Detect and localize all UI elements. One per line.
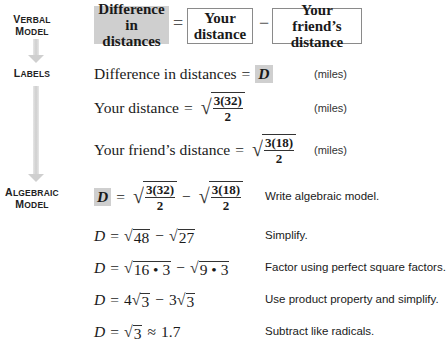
algebraic-row-result: D = √3 ≈ 1.7 <box>94 321 180 343</box>
step-description: Use product property and simplify. <box>265 293 439 305</box>
step-description: Write algebraic model. <box>265 190 379 202</box>
label-row-your-distance: Your distance = √ 3(32)2 <box>94 91 245 125</box>
units-label: (miles) <box>314 144 347 156</box>
verbal-term-your-distance: Your distance <box>187 8 253 44</box>
algebraic-row-product: D = 4 √3 − 3 √3 <box>94 289 195 311</box>
flow-arrow-icon <box>28 86 44 182</box>
flow-arrow-icon <box>28 39 44 63</box>
verbal-equals: = <box>173 13 183 34</box>
side-label-algebraic-model: ALGEBRAIC MODEL <box>0 187 64 211</box>
step-description: Simplify. <box>265 229 308 241</box>
sqrt-fraction: √ 3(32)2 <box>201 92 245 124</box>
units-label: (miles) <box>314 68 347 80</box>
units-label: (miles) <box>314 102 347 114</box>
sqrt-fraction: √ 3(18)2 <box>199 181 243 213</box>
verbal-minus: − <box>259 13 269 34</box>
label-row-friend-distance: Your friend’s distance = √ 3(18)2 <box>94 133 296 167</box>
algebraic-row-simplify: D = √48 − √27 <box>94 225 195 247</box>
step-description: Factor using perfect square factors. <box>265 261 446 273</box>
verbal-term-friend-distance: Your friend’s distance <box>272 8 362 44</box>
algebraic-row-model: D = √ 3(32)2 − √ 3(18)2 <box>94 180 243 214</box>
sqrt-fraction: √ 3(32)2 <box>133 181 177 213</box>
side-label-labels: LABELS <box>0 68 64 80</box>
label-row-difference: Difference in distances = D <box>94 63 273 85</box>
algebraic-row-factor: D = √16 • 3 − √9 • 3 <box>94 257 229 279</box>
step-description: Subtract like radicals. <box>265 325 374 337</box>
side-label-verbal-model: VERBAL MODEL <box>0 14 64 38</box>
verbal-term-difference: Difference in distances <box>94 6 169 44</box>
sqrt-fraction: √ 3(18)2 <box>252 134 296 166</box>
